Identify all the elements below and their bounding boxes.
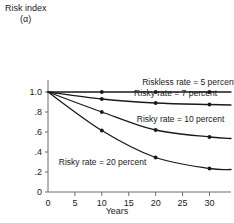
series-label: Risky rate = 20 percent [59,157,147,167]
y-axis-title: Risk index [5,3,47,14]
data-point-marker [154,101,158,105]
x-axis-title: Years [0,206,234,216]
data-point-marker [100,97,104,101]
y-tick-label: .2 [34,167,42,177]
data-point-marker [154,128,158,132]
y-axis-symbol: (α) [20,14,31,25]
data-point-marker [208,135,212,139]
data-point-marker [208,103,212,107]
data-point-marker [100,110,104,114]
y-tick-label: .4 [34,147,42,157]
y-tick-label: 0 [37,187,42,197]
series-label: Risky rate = 10 percent [137,114,225,124]
data-point-marker [208,167,212,171]
y-tick-label: .8 [34,107,42,117]
data-point-marker [154,156,158,160]
data-point-marker [100,90,104,94]
plot-area: 0.2.4.6.81.0051015202530Riskless rate = … [0,0,234,223]
series-label: Risky rate = 7 percent [134,88,218,98]
data-point-marker [100,129,104,133]
series-label: Riskless rate = 5 percent [142,77,234,87]
risk-index-chart: Risk index (α) 0.2.4.6.81.0051015202530R… [0,0,234,223]
y-tick-label: 1.0 [29,87,42,97]
y-tick-label: .6 [34,127,42,137]
